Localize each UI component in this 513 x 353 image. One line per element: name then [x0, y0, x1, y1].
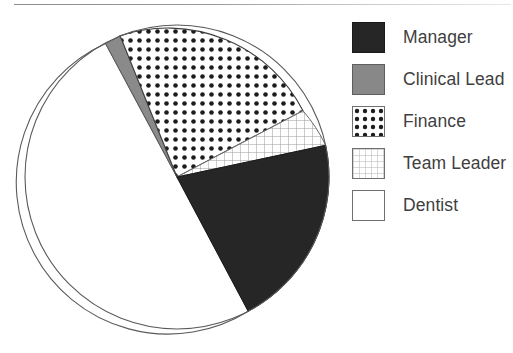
legend-item-team-leader: Team Leader: [352, 148, 512, 179]
legend-swatch-finance-icon: [352, 106, 385, 137]
legend-swatch-dentist-icon: [352, 190, 385, 221]
pie-chart-figure: Manager Clinical Lead Finance Team Leade…: [0, 0, 513, 353]
pie-chart-svg: [0, 0, 345, 353]
chart-legend: Manager Clinical Lead Finance Team Leade…: [352, 22, 512, 232]
legend-swatch-manager-icon: [352, 22, 385, 53]
legend-label-dentist: Dentist: [403, 195, 458, 216]
legend-item-clinical-lead: Clinical Lead: [352, 64, 512, 95]
legend-item-finance: Finance: [352, 106, 512, 137]
legend-swatch-clinical-lead-icon: [352, 64, 385, 95]
legend-label-team-leader: Team Leader: [403, 153, 506, 174]
legend-item-manager: Manager: [352, 22, 512, 53]
legend-swatch-team-leader-icon: [352, 148, 385, 179]
legend-label-manager: Manager: [403, 27, 473, 48]
dotted-pattern-icon: [353, 107, 384, 136]
pie-chart-plot-area: [0, 0, 345, 353]
legend-label-clinical-lead: Clinical Lead: [403, 69, 505, 90]
grid-pattern-icon: [353, 149, 384, 178]
legend-item-dentist: Dentist: [352, 190, 512, 221]
legend-label-finance: Finance: [403, 111, 466, 132]
